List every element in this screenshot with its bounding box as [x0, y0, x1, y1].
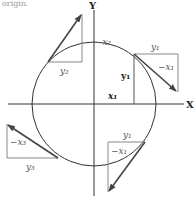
- svg-text:y₁: y₁: [122, 130, 132, 140]
- diagram-canvas: origin. Y X y₁ −x₁ y₁ x₁ y₂ −x₂ −x₃ y₃ y…: [0, 0, 194, 200]
- svg-text:−x₃: −x₃: [10, 137, 27, 147]
- svg-text:y₁: y₁: [150, 42, 160, 52]
- svg-text:y₂: y₂: [59, 66, 69, 76]
- quadrant-1-vector: y₁ −x₁ y₁ x₁: [107, 42, 178, 104]
- y-axis-label: Y: [88, 0, 97, 11]
- svg-text:−x₁: −x₁: [111, 146, 127, 156]
- svg-text:x₁: x₁: [107, 91, 117, 101]
- quadrant-4-vector: y₁ −x₁: [108, 130, 145, 192]
- svg-text:−x₁: −x₁: [158, 62, 174, 72]
- x-axis-label: X: [186, 99, 194, 110]
- svg-text:y₁: y₁: [120, 71, 130, 81]
- header-text-fragment: origin.: [2, 0, 29, 8]
- svg-text:−x₂: −x₂: [95, 37, 112, 47]
- svg-text:origin.: origin.: [2, 0, 29, 8]
- svg-text:y₃: y₃: [25, 162, 35, 172]
- quadrant-2-vector: y₂ −x₂: [48, 14, 112, 76]
